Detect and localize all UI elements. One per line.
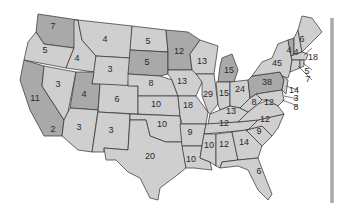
label-la: 10 [186, 154, 196, 164]
label-nh: 4 [293, 47, 298, 57]
label-mt: 4 [102, 34, 107, 44]
label-ne: 8 [148, 78, 153, 88]
label-fl: 6 [256, 166, 261, 176]
label-ca-south: 2 [50, 124, 55, 134]
state-ar[interactable] [180, 124, 206, 146]
label-md: 8 [293, 102, 298, 112]
label-sd: 5 [144, 57, 149, 67]
label-ok: 10 [157, 119, 167, 129]
label-ut: 4 [81, 89, 86, 99]
label-va: 12 [264, 97, 274, 107]
label-in: 15 [219, 88, 229, 98]
state-ct[interactable] [290, 60, 300, 72]
label-nm: 3 [108, 125, 113, 135]
label-ca: 11 [30, 93, 39, 103]
label-or: 5 [42, 45, 47, 55]
label-mn: 12 [174, 46, 184, 56]
label-ny: 45 [272, 58, 282, 68]
label-ms: 10 [204, 140, 214, 150]
label-wv: 8 [251, 97, 256, 107]
page-edge-scrollbar [330, 18, 334, 203]
label-wy: 3 [107, 64, 112, 74]
label-wi: 13 [197, 56, 207, 66]
label-ma: 18 [308, 52, 318, 62]
label-ct: 7 [305, 74, 310, 84]
label-al: 12 [219, 139, 229, 149]
label-tn: 12 [219, 118, 229, 128]
label-mi: 15 [224, 65, 234, 75]
state-ri[interactable] [300, 60, 304, 68]
label-ga: 14 [239, 137, 249, 147]
label-nc: 12 [260, 114, 270, 124]
label-ia: 13 [177, 76, 187, 86]
label-wa: 7 [50, 21, 55, 31]
label-sc: 9 [256, 126, 261, 136]
label-il: 29 [203, 89, 213, 99]
label-oh: 24 [235, 84, 245, 94]
label-ar: 9 [187, 127, 192, 137]
label-az: 3 [76, 122, 81, 132]
label-tx: 20 [145, 151, 155, 161]
label-ks: 10 [151, 99, 161, 109]
label-nd: 5 [145, 36, 150, 46]
label-me: 6 [299, 34, 304, 44]
state-fl[interactable] [220, 158, 272, 200]
label-id: 4 [74, 53, 79, 63]
label-vt: 4 [286, 45, 291, 55]
label-co: 6 [114, 94, 119, 104]
label-pa: 38 [262, 77, 272, 87]
label-nv: 3 [55, 79, 60, 89]
us-map: 7 5 11 2 3 4 4 3 4 3 6 3 5 5 8 10 10 20 … [0, 0, 337, 213]
label-ky: 13 [226, 106, 236, 116]
label-mo: 18 [183, 100, 193, 110]
